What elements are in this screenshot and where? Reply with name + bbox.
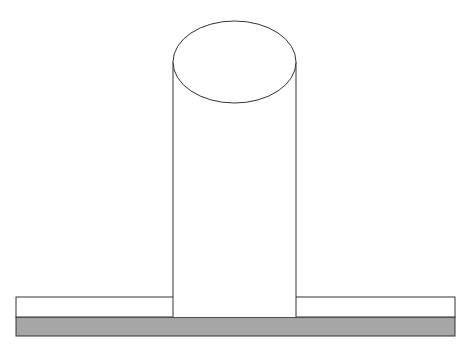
base-layer	[16, 317, 455, 336]
cylinder-on-plate-diagram	[0, 0, 471, 351]
cylinder-top-ellipse	[173, 21, 296, 103]
